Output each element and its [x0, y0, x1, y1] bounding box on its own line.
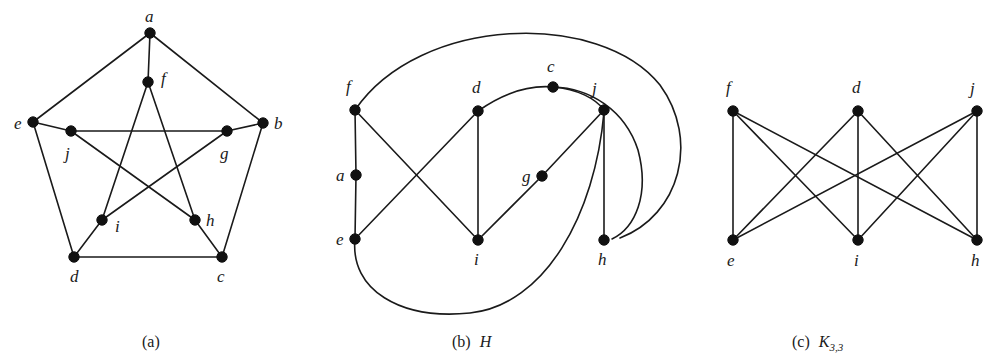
vertex-layer: fdjeih [726, 78, 982, 270]
vertex-d[interactable] [853, 106, 863, 116]
caption-b: (b)H [452, 333, 491, 351]
vertex-label-e: e [727, 251, 735, 270]
vertex-label-i: i [854, 251, 859, 270]
caption-graph-name: K3,3 [819, 333, 843, 350]
vertex-label-d: d [852, 78, 861, 97]
vertex-e[interactable] [728, 235, 738, 245]
edge-layer [733, 111, 977, 240]
vertex-label-j: j [968, 79, 975, 98]
caption-c: (c)K3,3 [792, 333, 843, 353]
vertex-f[interactable] [728, 106, 738, 116]
caption-letter: (b) [452, 333, 471, 350]
vertex-h[interactable] [972, 235, 982, 245]
caption-graph-subscript: 3,3 [829, 341, 843, 353]
vertex-label-f: f [726, 78, 733, 97]
vertex-label-h: h [971, 251, 980, 270]
caption-a: (a) [142, 333, 160, 351]
caption-graph-name: H [480, 333, 492, 350]
caption-letter: (c) [792, 333, 810, 350]
vertex-i[interactable] [853, 235, 863, 245]
vertex-j[interactable] [972, 106, 982, 116]
caption-letter: (a) [142, 333, 160, 350]
graph-panel-c: fdjeih [0, 0, 991, 363]
figure-container: abcdefghij faedicgjh fdjeih (a) (b)H (c)… [0, 0, 991, 363]
